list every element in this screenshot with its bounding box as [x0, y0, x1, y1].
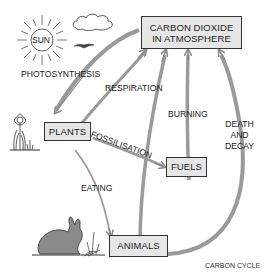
label-burning: BURNING — [168, 109, 208, 119]
bird-icon — [74, 44, 94, 48]
node-animals: ANIMALS — [109, 235, 168, 257]
node-plants: PLANTS — [44, 122, 91, 141]
node-fuels: FUELS — [166, 157, 207, 177]
diagram-caption: CARBON CYCLE — [205, 262, 260, 269]
label-photosynthesis: PHOTOSYNTHESIS — [21, 69, 100, 79]
co2-label-line2: IN ATMOSPHERE — [142, 33, 241, 44]
grass-icon — [84, 232, 100, 256]
label-respiration: RESPIRATION — [105, 83, 163, 93]
cloud-icon — [73, 14, 112, 30]
label-death-and-decay: DEATH AND DECAY — [225, 119, 254, 152]
label-decay: DECAY — [225, 141, 254, 152]
carbon-cycle-diagram: SUN CARBON DIOXIDE IN ATMOSPHERE PLANTS … — [0, 0, 269, 272]
label-and: AND — [225, 130, 254, 141]
node-co2-in-atmosphere: CARBON DIOXIDE IN ATMOSPHERE — [141, 16, 242, 49]
co2-label-line1: CARBON DIOXIDE — [142, 22, 241, 33]
sun-label: SUN — [32, 35, 50, 45]
rabbit-icon — [32, 217, 105, 255]
flower-icon — [10, 114, 40, 150]
label-death: DEATH — [225, 119, 254, 130]
label-eating: EATING — [81, 183, 112, 193]
